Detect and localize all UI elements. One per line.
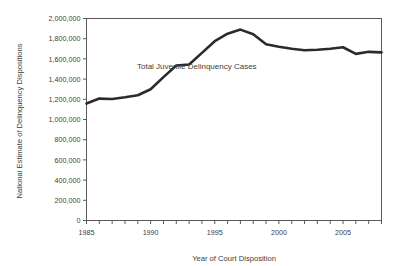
x-tick-label: 1995 [207, 228, 223, 237]
x-tick-label: 1985 [79, 228, 95, 237]
y-tick-label: 400,000 [55, 176, 81, 185]
y-tick-label: 800,000 [55, 135, 81, 144]
x-tick-label: 2000 [271, 228, 287, 237]
y-tick-label: 600,000 [55, 156, 81, 165]
y-tick-label: 1,600,000 [49, 55, 81, 64]
y-tick-label: 1,800,000 [49, 34, 81, 43]
y-axis-title: National Estimate of Delinquency Disposi… [15, 43, 24, 198]
y-tick-label: 1,400,000 [49, 75, 81, 84]
series-annotation: Total Juvenile Delinquency Cases [137, 62, 257, 71]
x-axis-title: Year of Court Disposition [192, 254, 276, 263]
y-tick-label: 0 [77, 216, 81, 225]
series-annotation-layer: Total Juvenile Delinquency Cases [137, 62, 257, 71]
chart-container: 0200,000400,000600,000800,0001,000,0001,… [0, 0, 396, 266]
x-tick-label: 1990 [143, 228, 159, 237]
y-tick-label: 200,000 [55, 196, 81, 205]
y-tick-label: 2,000,000 [49, 14, 81, 23]
y-tick-label: 1,200,000 [49, 95, 81, 104]
y-tick-label: 1,000,000 [49, 115, 81, 124]
line-chart: 0200,000400,000600,000800,0001,000,0001,… [0, 0, 396, 266]
x-tick-label: 2005 [335, 228, 351, 237]
